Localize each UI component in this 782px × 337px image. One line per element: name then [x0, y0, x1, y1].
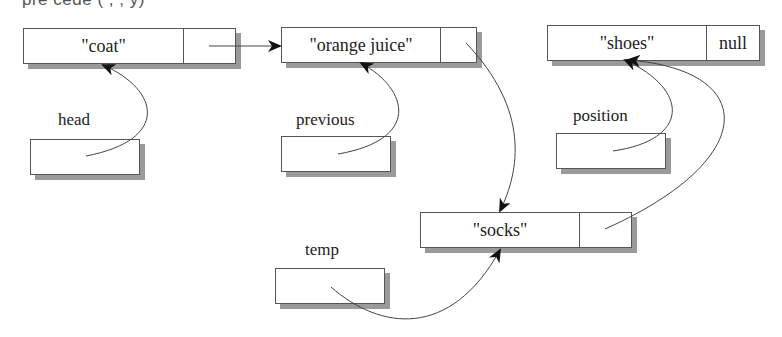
pointer-box-head [30, 139, 140, 175]
pointer-box-position [556, 133, 666, 169]
pointer-box-previous [281, 136, 391, 172]
node-next-field [184, 29, 235, 63]
node-next-field [580, 213, 631, 247]
link-arrow-orange-juice-to-socks [466, 43, 515, 211]
node-value: "shoes" [548, 26, 707, 60]
node-coat: "coat" [23, 28, 236, 64]
node-value: "orange juice" [282, 28, 441, 62]
node-shoes: "shoes" null [547, 25, 760, 61]
pointer-label-previous: previous [296, 110, 355, 130]
node-value: "coat" [24, 29, 184, 63]
node-next-null: null [707, 26, 759, 60]
node-socks: "socks" [420, 212, 632, 248]
node-value: "socks" [421, 213, 580, 247]
caption-fragment: pre cede ( , , y) [22, 0, 145, 10]
pointer-label-position: position [573, 106, 628, 126]
node-orange-juice: "orange juice" [281, 27, 477, 63]
node-next-field [441, 28, 476, 62]
pointer-box-temp [275, 268, 385, 304]
pointer-label-temp: temp [305, 240, 339, 260]
pointer-label-head: head [58, 110, 90, 130]
